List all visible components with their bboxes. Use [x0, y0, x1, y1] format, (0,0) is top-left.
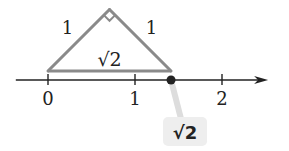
tick-label-2: 2 [216, 88, 227, 109]
right-angle-marker [104, 15, 115, 21]
leg-left-label: 1 [62, 17, 73, 38]
tick-label-0: 0 [42, 88, 53, 109]
sqrt2-point [167, 76, 176, 85]
point-callout: √2 [163, 84, 207, 146]
diagram-canvas: √2 1 1 √2 012 [0, 0, 289, 151]
callout-label: √2 [173, 122, 198, 143]
hypotenuse-label: √2 [97, 48, 121, 70]
right-triangle: 1 1 √2 [48, 9, 171, 71]
leg-right-label: 1 [146, 17, 157, 38]
callout-pointer-line [172, 84, 181, 119]
tick-label-1: 1 [129, 88, 140, 109]
number-line: 012 [16, 74, 268, 109]
